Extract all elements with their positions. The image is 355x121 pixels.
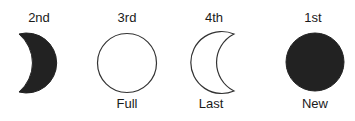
new-moon-icon [286, 33, 344, 91]
crescent-outline-icon [191, 32, 234, 94]
phase-name-label: New [302, 96, 329, 111]
phase-order-label: 2nd [28, 10, 50, 25]
phase-1st: 1st New [286, 10, 344, 111]
dark-crescent-icon [19, 33, 57, 93]
phase-4th: 4th Last [191, 10, 234, 111]
moon-phase-diagram: 2nd 3rd Full 4th Last 1st New [0, 0, 355, 121]
phase-name-label: Full [117, 96, 138, 111]
phase-order-label: 4th [205, 10, 223, 25]
phase-order-label: 3rd [118, 10, 137, 25]
phase-name-label: Last [199, 96, 224, 111]
phase-order-label: 1st [304, 10, 322, 25]
phase-2nd: 2nd [19, 10, 57, 93]
phase-3rd: 3rd Full [98, 10, 157, 111]
full-moon-icon [98, 34, 157, 93]
